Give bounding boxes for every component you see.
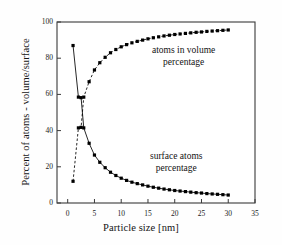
surface-annotation-line2: percentage [150, 162, 203, 174]
x-tick-label: 5 [84, 209, 104, 218]
data-point-marker [114, 174, 117, 177]
y-axis-title: Percent of atoms - volume/surface [20, 12, 31, 212]
data-point-marker [146, 37, 149, 40]
volume-annotation-line2: percentage [152, 56, 215, 68]
y-tick-label: 40 [33, 126, 53, 135]
data-point-marker [211, 29, 214, 32]
chart-figure: 05101520253035 020406080100 Particle siz… [0, 0, 282, 245]
data-point-marker [130, 181, 133, 184]
data-point-marker [104, 166, 107, 169]
x-tick-label: 35 [245, 209, 265, 218]
data-point-marker [141, 39, 144, 42]
data-point-marker [173, 189, 176, 192]
surface-annotation: surface atoms percentage [150, 150, 203, 174]
data-point-marker [221, 29, 224, 32]
data-point-marker [71, 44, 74, 47]
data-point-marker [216, 29, 219, 32]
data-point-marker [189, 191, 192, 194]
data-point-marker [71, 180, 74, 183]
data-point-marker [195, 191, 198, 194]
data-point-marker [109, 171, 112, 174]
data-point-marker [125, 43, 128, 46]
data-point-marker [130, 41, 133, 44]
data-point-marker [88, 80, 91, 83]
data-point-marker [98, 161, 101, 164]
data-point-marker [125, 179, 128, 182]
data-point-marker [104, 56, 107, 59]
y-tick-label: 0 [33, 198, 53, 207]
data-point-marker [178, 189, 181, 192]
data-point-marker [93, 68, 96, 71]
data-point-marker [109, 51, 112, 54]
data-point-marker [195, 31, 198, 34]
surface-annotation-line1: surface atoms [150, 150, 203, 162]
data-point-marker [162, 187, 165, 190]
data-point-marker [136, 182, 139, 185]
data-point-marker [146, 185, 149, 188]
data-point-marker [216, 193, 219, 196]
data-point-marker [205, 30, 208, 33]
data-point-marker [189, 31, 192, 34]
data-point-marker [162, 34, 165, 37]
x-tick-label: 25 [191, 209, 211, 218]
data-point-marker [157, 35, 160, 38]
data-point-marker [184, 190, 187, 193]
volume-annotation: atoms in volume percentage [152, 44, 215, 68]
data-point-marker [221, 193, 224, 196]
data-point-marker [227, 193, 230, 196]
y-tick-label: 20 [33, 162, 53, 171]
x-axis-title: Particle size [nm] [0, 222, 282, 233]
data-point-marker [157, 187, 160, 190]
x-tick-label: 15 [138, 209, 158, 218]
data-point-marker [200, 191, 203, 194]
data-point-marker [168, 188, 171, 191]
x-tick-label: 0 [58, 209, 78, 218]
data-point-marker [168, 34, 171, 37]
data-point-marker [205, 192, 208, 195]
data-point-marker [114, 48, 117, 51]
x-tick-label: 30 [218, 209, 238, 218]
x-tick-label: 10 [111, 209, 131, 218]
data-point-marker [93, 153, 96, 156]
data-point-marker [178, 32, 181, 35]
data-point-marker [136, 40, 139, 43]
data-point-marker [227, 28, 230, 31]
data-point-marker [200, 30, 203, 33]
data-point-marker [88, 142, 91, 145]
y-axis-title-wrapper: Percent of atoms - volume/surface [20, 12, 36, 212]
volume-annotation-line1: atoms in volume [152, 44, 215, 56]
data-point-marker [120, 45, 123, 48]
data-point-marker [98, 61, 101, 64]
y-tick-label: 80 [33, 53, 53, 62]
data-point-marker [173, 33, 176, 36]
data-point-marker [184, 32, 187, 35]
data-point-marker [152, 36, 155, 39]
data-point-marker [79, 96, 82, 99]
data-point-marker [141, 183, 144, 186]
data-point-marker [152, 186, 155, 189]
data-point-marker [120, 177, 123, 180]
y-tick-label: 100 [33, 17, 53, 26]
x-tick-label: 20 [165, 209, 185, 218]
data-point-marker [82, 126, 85, 129]
y-tick-label: 60 [33, 89, 53, 98]
data-point-marker [211, 192, 214, 195]
